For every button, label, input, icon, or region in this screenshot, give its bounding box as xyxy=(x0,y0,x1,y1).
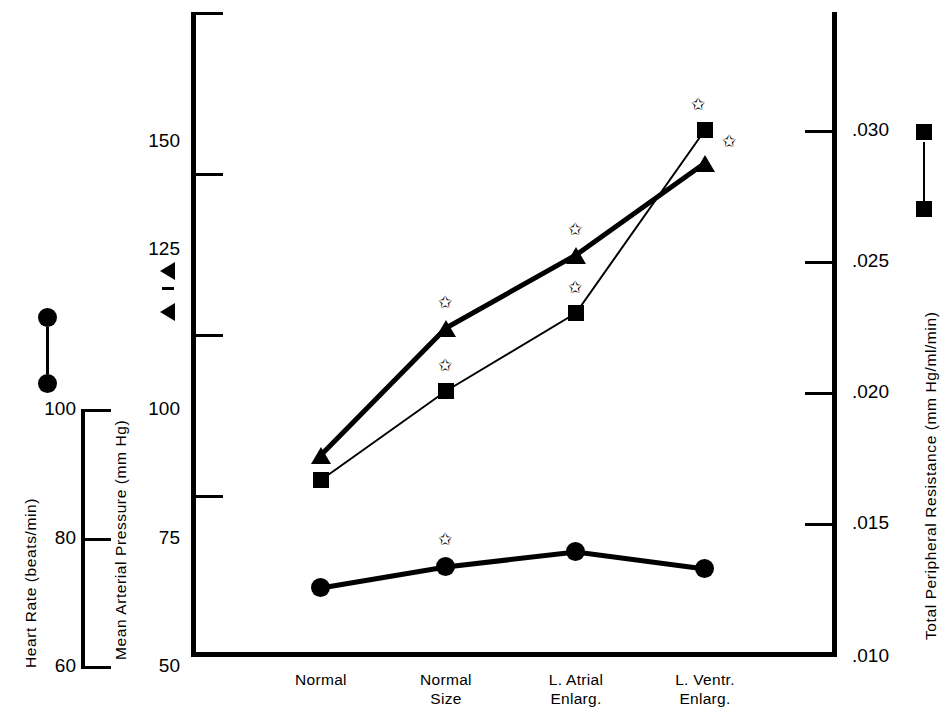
tpr-significance-star-3: ✩ xyxy=(568,279,582,296)
category-label-l-ventr-enlarg: L. Ventr. Enlarg. xyxy=(645,670,765,708)
category-label-l-atrial-line1: L. Atrial xyxy=(516,670,636,689)
category-label-normal-size: Normal Size xyxy=(386,670,506,708)
map-point-3 xyxy=(566,247,586,264)
tpr-line xyxy=(321,130,705,480)
tpr-point-3 xyxy=(568,305,584,321)
heart-rate-point-3 xyxy=(566,542,585,561)
heart-rate-point-1 xyxy=(311,578,330,597)
map-point-4 xyxy=(695,155,715,172)
category-label-l-ventr-line2: Enlarg. xyxy=(645,689,765,708)
heart-rate-point-2 xyxy=(436,557,455,576)
heart-rate-point-4 xyxy=(695,559,714,578)
map-significance-star-4: ✩ xyxy=(722,133,736,150)
map-point-2 xyxy=(436,320,456,337)
category-label-normal: Normal xyxy=(261,670,381,689)
tpr-significance-star-2: ✩ xyxy=(438,357,452,374)
category-label-l-atrial-enlarg: L. Atrial Enlarg. xyxy=(516,670,636,708)
heart-rate-line xyxy=(321,552,705,588)
tpr-point-2 xyxy=(438,383,454,399)
category-label-normal-size-line1: Normal xyxy=(386,670,506,689)
tpr-significance-star-4: ✩ xyxy=(691,96,705,113)
tpr-point-4 xyxy=(697,122,713,138)
map-line xyxy=(321,163,705,455)
tpr-point-1 xyxy=(313,472,329,488)
category-label-normal-line1: Normal xyxy=(261,670,381,689)
chart-canvas: 100 80 60 Heart Rate (beats/min) 150 125… xyxy=(0,0,948,727)
category-label-l-ventr-line1: L. Ventr. xyxy=(645,670,765,689)
map-point-1 xyxy=(311,447,331,464)
category-label-l-atrial-line2: Enlarg. xyxy=(516,689,636,708)
heart-rate-significance-star-2: ✩ xyxy=(438,531,452,548)
category-label-normal-size-line2: Size xyxy=(386,689,506,708)
map-significance-star-3: ✩ xyxy=(568,221,582,238)
map-significance-star-2: ✩ xyxy=(438,294,452,311)
series-lines xyxy=(0,0,948,727)
